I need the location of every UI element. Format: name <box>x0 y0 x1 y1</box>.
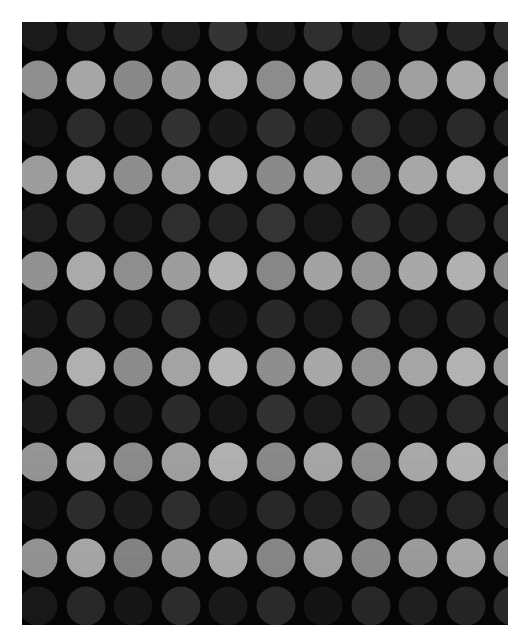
dot <box>399 108 438 147</box>
dot <box>114 252 153 291</box>
dot <box>161 204 200 243</box>
dot <box>351 108 390 147</box>
dot <box>161 22 200 52</box>
dot <box>494 252 509 291</box>
dot <box>304 538 343 577</box>
dot <box>22 22 58 52</box>
dot <box>22 108 58 147</box>
dot <box>494 347 509 386</box>
dot <box>22 156 58 195</box>
dot <box>114 299 153 338</box>
dot <box>399 252 438 291</box>
dot <box>66 586 105 625</box>
dot <box>161 60 200 99</box>
dot <box>114 443 153 482</box>
dot <box>256 538 295 577</box>
dot <box>161 443 200 482</box>
dot <box>256 443 295 482</box>
dot <box>114 156 153 195</box>
dot <box>66 395 105 434</box>
dot <box>209 491 248 530</box>
dot <box>304 252 343 291</box>
dot <box>209 22 248 52</box>
dot <box>161 347 200 386</box>
dot <box>351 156 390 195</box>
dot <box>66 347 105 386</box>
dot <box>399 586 438 625</box>
dot <box>22 586 58 625</box>
dot <box>22 538 58 577</box>
dot-layer <box>22 22 508 625</box>
dot <box>256 108 295 147</box>
dot <box>256 60 295 99</box>
dot <box>161 538 200 577</box>
dot <box>66 252 105 291</box>
dot <box>209 347 248 386</box>
dot <box>351 443 390 482</box>
dot <box>351 347 390 386</box>
dot <box>256 156 295 195</box>
dot <box>114 347 153 386</box>
dot <box>114 538 153 577</box>
dot <box>66 204 105 243</box>
dot <box>446 204 485 243</box>
dot <box>399 60 438 99</box>
dot <box>446 108 485 147</box>
dot <box>114 395 153 434</box>
dot <box>494 395 509 434</box>
dot <box>161 586 200 625</box>
dot <box>66 60 105 99</box>
dot <box>22 204 58 243</box>
dot <box>22 443 58 482</box>
dot <box>399 443 438 482</box>
dot <box>209 395 248 434</box>
dot <box>209 108 248 147</box>
dot <box>446 538 485 577</box>
dot <box>209 538 248 577</box>
dot <box>161 491 200 530</box>
dot <box>351 395 390 434</box>
dot <box>161 156 200 195</box>
dot <box>399 22 438 52</box>
dot <box>304 60 343 99</box>
dot <box>399 491 438 530</box>
polka-dot-pattern-panel <box>22 22 508 625</box>
dot <box>446 22 485 52</box>
dot <box>351 586 390 625</box>
dot <box>256 586 295 625</box>
dot <box>494 586 509 625</box>
dot <box>256 22 295 52</box>
dot <box>22 347 58 386</box>
dot <box>399 538 438 577</box>
dot <box>494 204 509 243</box>
dot <box>114 491 153 530</box>
dot <box>66 538 105 577</box>
dot <box>304 204 343 243</box>
dot <box>494 538 509 577</box>
dot <box>114 586 153 625</box>
dot <box>256 395 295 434</box>
dot <box>209 156 248 195</box>
dot <box>256 204 295 243</box>
dot <box>114 60 153 99</box>
dot <box>209 252 248 291</box>
dot <box>399 299 438 338</box>
dot <box>351 252 390 291</box>
dot <box>304 156 343 195</box>
dot <box>304 395 343 434</box>
dot <box>446 395 485 434</box>
dot <box>22 252 58 291</box>
dot <box>66 443 105 482</box>
dot <box>209 299 248 338</box>
dot <box>446 347 485 386</box>
dot <box>304 443 343 482</box>
dot <box>494 22 509 52</box>
dot <box>494 156 509 195</box>
dot <box>22 60 58 99</box>
dot <box>209 204 248 243</box>
dot <box>351 491 390 530</box>
dot <box>66 22 105 52</box>
dot <box>66 156 105 195</box>
dot <box>22 395 58 434</box>
dot <box>209 443 248 482</box>
